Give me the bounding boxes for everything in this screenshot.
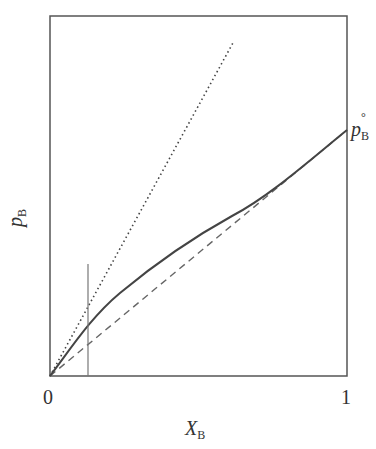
chart-canvas — [0, 0, 376, 449]
pure-b-label-main: p — [351, 118, 361, 140]
x-tick-0: 0 — [43, 386, 53, 409]
pure-b-pressure-label: p°B — [351, 118, 371, 144]
henry-law-dotted-line — [50, 41, 234, 376]
y-axis-label: pB — [4, 209, 30, 227]
y-axis-label-sub: B — [15, 209, 29, 217]
x-tick-1: 1 — [341, 386, 351, 409]
pure-b-label-sup: ° — [361, 110, 366, 125]
x-axis-label-sub: B — [197, 428, 205, 442]
x-axis-label-main: X — [185, 417, 197, 439]
pure-b-label-sub: B — [361, 129, 369, 143]
x-axis-label: XB — [185, 417, 205, 443]
plot-frame — [50, 16, 347, 376]
y-axis-label-main: p — [4, 217, 26, 227]
